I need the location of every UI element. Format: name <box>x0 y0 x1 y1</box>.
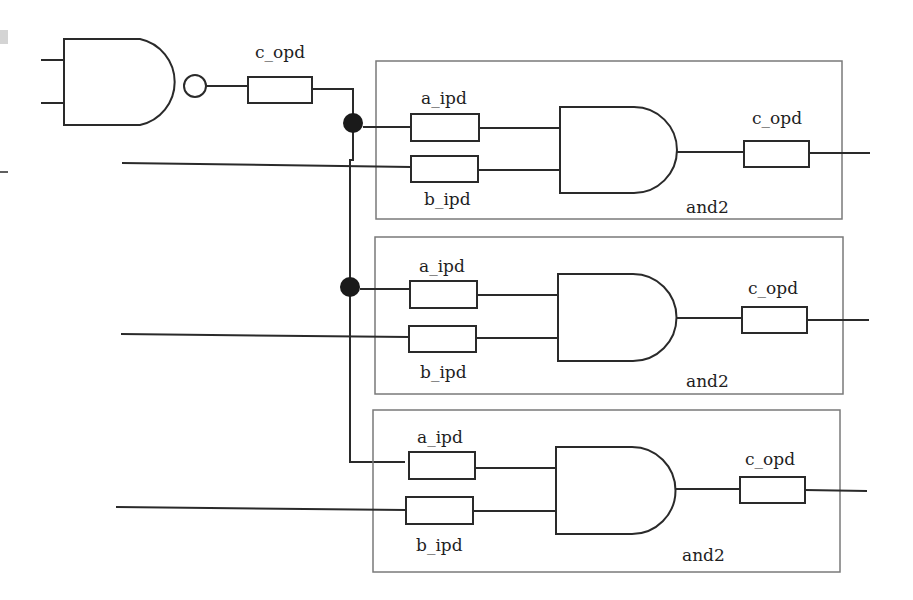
and-gate-block-1: a_ipd b_ipd c_opd and2 <box>122 61 870 219</box>
a-ipd-label-1: a_ipd <box>421 88 467 108</box>
nand-output-delay-block <box>248 77 312 103</box>
b-ipd-label-1: b_ipd <box>424 189 471 209</box>
b-ipd-block-1 <box>411 156 478 182</box>
c-opd-block-2 <box>742 307 807 333</box>
c-opd-block-1 <box>744 141 809 167</box>
and-gate-block-3: a_ipd b_ipd c_opd and2 <box>116 410 867 572</box>
c-opd-label-3: c_opd <box>745 449 795 469</box>
c-opd-block-3 <box>740 477 805 503</box>
b-ipd-block-3 <box>406 497 473 524</box>
c-opd-output-wire-3 <box>805 490 867 491</box>
and2-name-label-2: and2 <box>686 371 729 391</box>
a-ipd-label-3: a_ipd <box>417 427 463 447</box>
and2-name-label-3: and2 <box>682 545 725 565</box>
circuit-diagram: c_opd a_ipd b_ipd c_opd and2 a_ipd b_ipd <box>0 0 913 600</box>
and-gate-block-2: a_ipd b_ipd c_opd and2 <box>121 237 869 394</box>
and-gate-body-2 <box>558 274 677 361</box>
c-opd-label-1: c_opd <box>752 108 802 128</box>
c-opd-label-2: c_opd <box>748 278 798 298</box>
junction-dot-2 <box>340 277 360 297</box>
b-ipd-label-3: b_ipd <box>416 535 463 555</box>
junction-dot-1 <box>343 113 363 133</box>
nand-gate: c_opd <box>41 39 353 125</box>
b-ipd-label-2: b_ipd <box>420 362 467 382</box>
a-ipd-block-2 <box>410 281 477 308</box>
a-ipd-label-2: a_ipd <box>419 256 465 276</box>
nand-gate-body <box>64 39 175 125</box>
nand-inversion-bubble <box>184 75 206 97</box>
and2-name-label-1: and2 <box>686 197 729 217</box>
a-ipd-block-1 <box>411 114 479 141</box>
b-input-wire-1 <box>122 163 411 167</box>
and-gate-body-3 <box>556 447 676 534</box>
nand-output-delay-label: c_opd <box>255 42 305 62</box>
and-gate-body-1 <box>560 107 677 193</box>
a-ipd-block-3 <box>409 452 475 479</box>
page-margin-mark <box>0 30 8 44</box>
b-input-wire-3 <box>116 507 406 510</box>
b-input-wire-2 <box>121 334 409 337</box>
b-ipd-block-2 <box>409 326 476 352</box>
